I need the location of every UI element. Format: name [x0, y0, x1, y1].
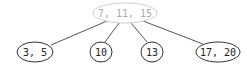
b-tree-diagram: 7, 11, 15 3, 5101317, 20 [0, 0, 247, 67]
child-node-label: 3, 5 [23, 47, 47, 58]
child-node-label: 13 [146, 47, 158, 58]
tree-edge [131, 23, 147, 42]
child-nodes: 3, 5101317, 20 [17, 42, 240, 62]
child-node: 17, 20 [196, 42, 240, 62]
tree-edge [143, 21, 203, 44]
child-node: 3, 5 [17, 42, 53, 62]
child-node: 10 [90, 42, 112, 62]
root-node: 7, 11, 15 [93, 3, 157, 23]
tree-edges [51, 21, 203, 45]
child-node: 13 [141, 42, 163, 62]
tree-edge [51, 21, 107, 45]
child-node-label: 17, 20 [200, 47, 236, 58]
child-node-label: 10 [95, 47, 107, 58]
root-node-label: 7, 11, 15 [98, 8, 152, 19]
tree-edge [105, 23, 119, 42]
